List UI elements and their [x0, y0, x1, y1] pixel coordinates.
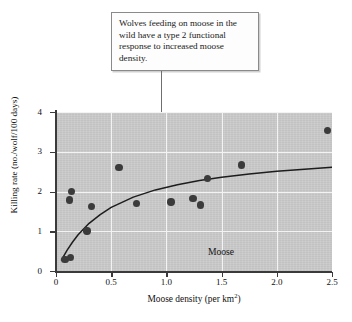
x-axis-tick-label: 1.5	[210, 277, 234, 287]
y-axis-tick	[50, 231, 55, 232]
x-axis-tick-label: 1.0	[154, 277, 178, 287]
y-axis-tick-label: 3	[28, 146, 42, 156]
data-point	[238, 161, 245, 168]
data-point	[83, 227, 90, 234]
y-axis-line	[55, 110, 57, 273]
y-axis-tick	[50, 192, 55, 193]
x-axis-tick-label: 0.5	[99, 277, 123, 287]
data-point	[167, 198, 174, 205]
x-axis-tick-label: 0	[44, 277, 68, 287]
data-point	[66, 196, 73, 203]
y-axis-tick	[50, 271, 55, 272]
y-axis-tick-label: 2	[28, 186, 42, 196]
y-axis-tick-label: 1	[28, 226, 42, 236]
data-point	[115, 164, 122, 171]
x-axis-tick-label: 2.0	[265, 277, 289, 287]
plot-area: Moose	[56, 112, 332, 271]
figure-scatter-killing-rate-vs-moose-density: Wolves feeding on moose in the wild have…	[0, 0, 352, 322]
x-axis-title: Moose density (per km2)	[56, 292, 332, 304]
y-axis-title: Killing rate (no./wolf/100 days)	[9, 70, 19, 240]
data-point	[197, 201, 204, 208]
x-axis-title-tail: )	[237, 294, 240, 304]
data-point	[189, 195, 196, 202]
y-axis-tick-label: 4	[28, 107, 42, 117]
y-axis-tick	[50, 152, 55, 153]
callout-box: Wolves feeding on moose in the wild have…	[111, 12, 259, 71]
y-axis-tick-labels: 01234	[24, 0, 42, 322]
x-axis-tick-label: 2.5	[320, 277, 344, 287]
x-axis-line	[55, 271, 332, 273]
x-axis-title-main: Moose density (per km	[147, 294, 234, 304]
data-point	[204, 175, 211, 182]
series-annotation-moose: Moose	[208, 246, 234, 257]
fit-curve-line	[56, 112, 332, 271]
y-axis-tick-label: 0	[28, 266, 42, 276]
callout-text: Wolves feeding on moose in the wild have…	[119, 18, 237, 63]
y-axis-tick	[50, 112, 55, 113]
